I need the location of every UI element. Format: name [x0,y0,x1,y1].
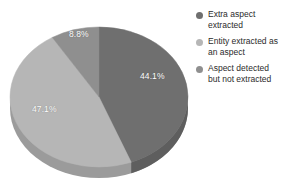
legend-item-entity-extracted-as-an-aspect[interactable]: Entity extracted as an aspect [196,36,298,57]
legend-swatch-icon [196,66,203,73]
pie-chart: 44.1% 47.1% 8.8% Extra aspect extracted … [0,0,298,187]
legend-label-line-2: but not extracted [208,74,271,84]
legend-label-line-2: an aspect [208,47,245,57]
pie-graphic [0,0,196,187]
slice-value-label-aspect-detected-but-not-extracted: 8.8% [69,29,89,39]
legend-swatch-icon [196,12,203,19]
legend-label-line-2: extracted [208,20,243,30]
legend-label: Extra aspect extracted [208,9,255,30]
legend-item-extra-aspect-extracted[interactable]: Extra aspect extracted [196,9,298,30]
legend-swatch-icon [196,39,203,46]
legend-label: Entity extracted as an aspect [208,36,278,57]
pie-plot-area: 44.1% 47.1% 8.8% [0,0,196,187]
pie-top-face [10,27,188,167]
legend-item-aspect-detected-but-not-extracted[interactable]: Aspect detected but not extracted [196,63,298,84]
slice-value-label-extra-aspect-extracted: 44.1% [140,71,165,81]
legend-label: Aspect detected but not extracted [208,63,271,84]
legend-label-line-1: Entity extracted as [208,36,278,46]
slice-value-label-entity-extracted-as-an-aspect: 47.1% [32,104,57,114]
legend-label-line-1: Extra aspect [208,9,255,19]
legend-label-line-1: Aspect detected [208,63,269,73]
chart-legend: Extra aspect extracted Entity extracted … [196,9,298,90]
